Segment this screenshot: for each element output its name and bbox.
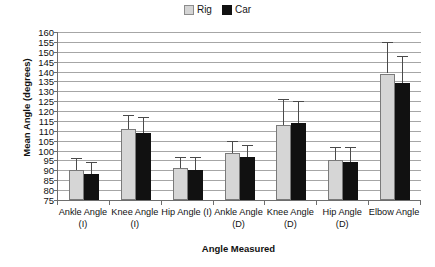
bar-groups [58, 32, 421, 200]
legend-entry-rig: Rig [184, 4, 212, 15]
error-bar-cap [190, 157, 201, 158]
error-bar [76, 158, 77, 170]
bar-car [136, 133, 151, 200]
bar-group [369, 32, 421, 200]
bar-slot [240, 32, 255, 200]
error-bar [247, 145, 248, 157]
error-bar-cap [227, 141, 238, 142]
bar-slot [291, 32, 306, 200]
bar-slot [276, 32, 291, 200]
x-tick-mark [420, 200, 421, 205]
x-tick-mark [264, 200, 265, 205]
legend-entry-car: Car [222, 4, 251, 15]
y-tick-label: 75 [43, 195, 54, 206]
bar-rig [276, 125, 291, 200]
bar-rig [225, 153, 240, 200]
error-bar-cap [382, 42, 393, 43]
bar-group [265, 32, 317, 200]
error-bar-cap [123, 115, 134, 116]
x-tick-label: Ankle Angle (D) [213, 206, 265, 230]
x-tick-label: Knee Angle (I) [109, 206, 161, 230]
legend-label-rig: Rig [197, 4, 212, 15]
x-tick-mark [109, 200, 110, 205]
error-bar [128, 115, 129, 129]
error-bar [402, 56, 403, 84]
x-tick-mark [316, 200, 317, 205]
error-bar [283, 99, 284, 125]
bar-car [291, 123, 306, 200]
error-bar-cap [397, 56, 408, 57]
error-bar-cap [330, 147, 341, 148]
bar-car [84, 174, 99, 200]
error-bar-cap [138, 117, 149, 118]
error-bar-cap [242, 145, 253, 146]
bar-rig [69, 170, 84, 200]
legend-swatch-car-icon [222, 5, 232, 15]
bar-group [317, 32, 369, 200]
bar-group [110, 32, 162, 200]
plot-area: 1601551501451401351301251201151101051009… [57, 32, 421, 200]
x-tick-label: Hip Angle (D) [316, 206, 368, 230]
x-tick-label: Hip Angle (I) [161, 206, 213, 230]
error-bar-cap [175, 157, 186, 158]
bar-slot [173, 32, 188, 200]
legend-label-car: Car [235, 4, 251, 15]
bar-rig [380, 74, 395, 200]
legend-swatch-rig-icon [184, 5, 194, 15]
bar-chart: Rig Car Mean Angle (degrees) 16015515014… [0, 0, 435, 267]
error-bar [335, 147, 336, 161]
bar-car [188, 170, 203, 200]
bar-rig [173, 168, 188, 200]
bar-car [240, 157, 255, 200]
error-bar-cap [278, 99, 289, 100]
error-bar [387, 42, 388, 74]
bar-rig [328, 160, 343, 200]
error-bar [91, 162, 92, 174]
bar-slot [380, 32, 395, 200]
error-bar-cap [293, 101, 304, 102]
bar-rig [121, 129, 136, 200]
error-bar [298, 101, 299, 123]
bar-group [58, 32, 110, 200]
y-axis-title: Mean Angle (degrees) [21, 38, 32, 178]
error-bar [143, 117, 144, 133]
bar-slot [343, 32, 358, 200]
error-bar-cap [86, 162, 97, 163]
x-tick-mark [368, 200, 369, 205]
x-axis-labels: Ankle Angle (I)Knee Angle (I)Hip Angle (… [57, 206, 420, 230]
x-tick-label: Knee Angle (D) [264, 206, 316, 230]
bar-slot [69, 32, 84, 200]
bar-group [214, 32, 266, 200]
error-bar [232, 141, 233, 153]
bar-group [162, 32, 214, 200]
error-bar [195, 157, 196, 171]
error-bar-cap [345, 147, 356, 148]
error-bar [180, 157, 181, 169]
bar-slot [121, 32, 136, 200]
bar-slot [136, 32, 151, 200]
bar-slot [84, 32, 99, 200]
bar-car [395, 83, 410, 200]
chart-legend: Rig Car [0, 4, 435, 15]
error-bar-cap [71, 158, 82, 159]
x-tick-mark [57, 200, 58, 205]
bar-slot [395, 32, 410, 200]
bar-slot [188, 32, 203, 200]
bar-slot [225, 32, 240, 200]
x-tick-mark [161, 200, 162, 205]
bar-car [343, 162, 358, 200]
error-bar [350, 147, 351, 163]
x-axis-title: Angle Measured [57, 243, 420, 254]
bar-slot [328, 32, 343, 200]
x-tick-label: Elbow Angle [368, 206, 420, 230]
x-tick-mark [213, 200, 214, 205]
x-tick-label: Ankle Angle (I) [57, 206, 109, 230]
